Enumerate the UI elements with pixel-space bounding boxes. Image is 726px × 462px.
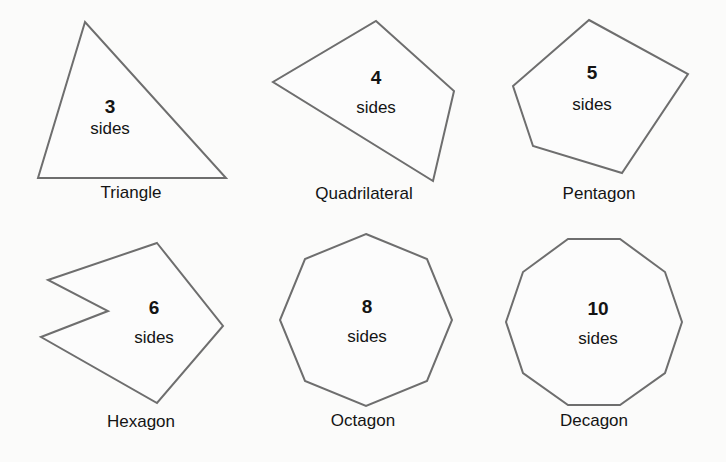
shape-triangle xyxy=(38,22,226,178)
shape-octagon xyxy=(280,234,452,406)
shape-quadrilateral xyxy=(273,21,454,181)
shape-hexagon xyxy=(41,243,223,403)
shape-pentagon xyxy=(513,20,688,173)
shape-decagon xyxy=(506,239,682,405)
shapes-canvas xyxy=(0,0,726,462)
polygon-chart: 3 sides Triangle 4 sides Quadrilateral 5… xyxy=(0,0,726,462)
